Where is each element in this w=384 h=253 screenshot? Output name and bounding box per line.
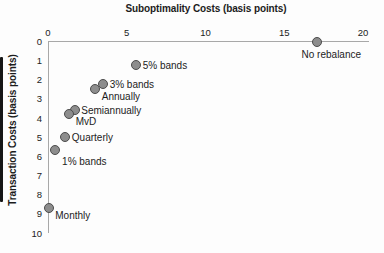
y-tick-label: 10 — [16, 228, 42, 239]
data-point-marker — [50, 145, 60, 155]
y-tick-label: 2 — [16, 74, 42, 85]
y-tick-label: 1 — [16, 55, 42, 66]
scan-edge-artifact — [0, 57, 3, 202]
data-point-marker — [312, 37, 322, 47]
y-tick-label: 5 — [16, 132, 42, 143]
x-tick-label: 5 — [124, 27, 129, 38]
data-point-label: 5% bands — [143, 60, 187, 71]
data-point-label: MvD — [76, 116, 97, 127]
x-tick-label: 10 — [200, 27, 211, 38]
data-point-marker — [131, 60, 141, 70]
data-point-label: Semiannually — [81, 105, 141, 116]
y-tick-label: 8 — [16, 189, 42, 200]
y-tick-label: 3 — [16, 93, 42, 104]
data-point-label: No rebalance — [281, 49, 381, 60]
data-point-label: 3% bands — [110, 79, 154, 90]
data-point-label: Monthly — [55, 210, 90, 221]
data-point-marker — [60, 132, 70, 142]
data-point-label: Quarterly — [72, 132, 113, 143]
x-tick-label: 20 — [358, 27, 369, 38]
y-tick-label: 6 — [16, 151, 42, 162]
data-point-label: Annually — [102, 91, 140, 102]
x-tick-label: 0 — [45, 27, 50, 38]
y-tick-label: 4 — [16, 113, 42, 124]
data-point-marker — [44, 203, 54, 213]
x-axis-title: Suboptimality Costs (basis points) — [48, 3, 364, 14]
y-tick-label: 7 — [16, 170, 42, 181]
y-tick-label: 9 — [16, 208, 42, 219]
data-point-label: 1% bands — [62, 156, 106, 167]
data-point-marker — [64, 109, 74, 119]
rebalancing-cost-scatter-figure: Suboptimality Costs (basis points) Trans… — [0, 0, 384, 253]
y-tick-label: 0 — [16, 36, 42, 47]
x-tick-label: 15 — [279, 27, 290, 38]
data-point-marker — [90, 84, 100, 94]
